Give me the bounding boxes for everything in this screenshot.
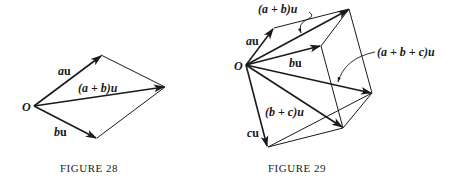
label-bu: bu [289,56,302,70]
figure-29: O au (a + b)u bu (a + b + c)u (b + c)u c… [234,2,435,174]
label-sum: (a + b)u [78,81,118,95]
label-au: au [58,64,71,78]
box-edge [268,128,343,147]
box-edge [268,93,372,147]
label-bu: bu [54,125,67,139]
vector-bu [246,46,320,65]
vector-abc [246,65,371,93]
figure-caption: FIGURE 28 [60,162,118,174]
vector-figures: O au (a + b)u bu FIGURE 28 O au (a + b)u… [0,0,469,177]
figure-caption: FIGURE 29 [268,162,326,174]
origin-label: O [234,59,243,73]
label-cu: cu [247,126,259,140]
figure-28: O au (a + b)u bu FIGURE 28 [22,55,165,174]
label-au: au [246,34,259,48]
origin-label: O [22,100,31,114]
label-bc: (b + c)u [265,105,304,119]
callout-abc [338,52,375,82]
box-edge [349,9,372,93]
box-edge [343,93,372,128]
label-abc: (a + b + c)u [377,45,435,59]
label-ab: (a + b)u [258,2,298,16]
